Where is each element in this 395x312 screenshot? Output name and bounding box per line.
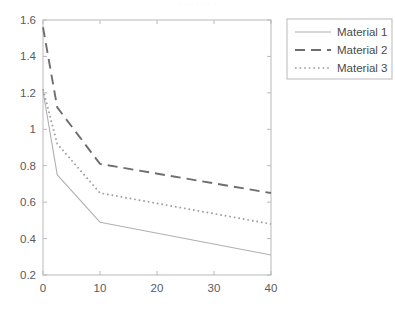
x-tick-label: 40: [265, 282, 278, 294]
y-tick-label: 0.8: [20, 160, 36, 172]
x-tick-label: 0: [40, 282, 46, 294]
x-axis-ticks: [43, 20, 271, 275]
series-line: [43, 27, 271, 193]
legend-item-label: Material 3: [337, 62, 388, 74]
y-tick-label: 1.6: [20, 14, 36, 26]
x-tick-label: 30: [208, 282, 221, 294]
y-tick-label: 0.4: [20, 233, 37, 245]
y-tick-label: 0.6: [20, 196, 36, 208]
y-tick-label: 1: [30, 123, 36, 135]
y-axis-ticks: [43, 20, 271, 275]
x-tick-label: 10: [94, 282, 107, 294]
x-tick-label: 20: [151, 282, 164, 294]
figure-canvas: · · · · · · · 0.20.40.60.811.21.41.6 010…: [0, 0, 395, 312]
series-line: [43, 89, 271, 224]
line-chart: 0.20.40.60.811.21.41.6 010203040 Materia…: [0, 0, 395, 312]
y-axis-tick-labels: 0.20.40.60.811.21.41.6: [20, 14, 37, 281]
x-axis-tick-labels: 010203040: [40, 282, 278, 294]
y-tick-label: 0.2: [20, 269, 36, 281]
y-tick-label: 1.2: [20, 87, 36, 99]
y-tick-label: 1.4: [20, 50, 37, 62]
legend-item-label: Material 1: [337, 26, 388, 38]
legend: Material 1Material 2Material 3: [287, 19, 392, 79]
plot-border: [43, 20, 271, 275]
axes-frame: [43, 20, 271, 275]
legend-item-label: Material 2: [337, 44, 388, 56]
series-lines: [43, 27, 271, 255]
